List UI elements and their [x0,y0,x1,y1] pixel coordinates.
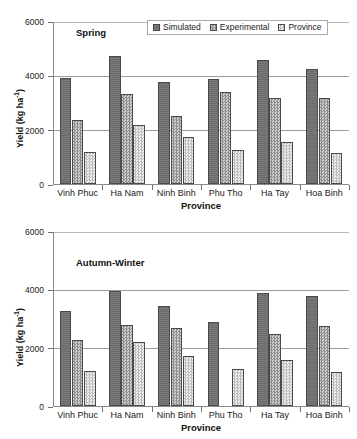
bar-spring-province-ninh-binh [183,137,195,184]
bar-spring-experimental-ha-tay [269,98,281,184]
y-tick-label-2000: 2000 [0,344,44,353]
x-tick-2 [201,185,202,190]
x-axis-label-vinh-phuc: Vinh Phuc [57,188,98,198]
bar-spring-experimental-ha-nam [121,94,133,184]
bar-spring-province-phu-tho [232,150,244,184]
x-tick-2 [201,407,202,412]
bar-autumn-province-ha-tay [281,360,293,406]
x-axis-label-phu-tho: Phu Tho [209,410,243,420]
bar-autumn-province-hoa-binh [331,372,343,406]
bar-spring-experimental-vinh-phuc [72,120,84,184]
legend-label-province: Province [288,23,321,32]
bar-spring-province-hoa-binh [331,153,343,184]
panel-caption-autumn-winter: Autumn-Winter [76,257,145,268]
bar-spring-simulated-ha-nam [109,56,121,184]
legend-entry-province: Province [278,23,321,32]
legend-swatch-experimental-icon [210,24,217,31]
bar-autumn-province-ha-nam [133,342,145,406]
y-tick-label-4000: 4000 [0,286,44,295]
bar-autumn-simulated-ha-nam [109,291,121,406]
x-axis-label-phu-tho: Phu Tho [209,188,243,198]
y-tick-label-0: 0 [0,181,44,190]
y-tick-label-4000: 4000 [0,72,44,81]
bar-autumn-province-vinh-phuc [84,371,96,406]
bar-spring-simulated-phu-tho [208,79,220,184]
x-axis-title-autumn: Province [53,422,349,433]
y-tick-label-2000: 2000 [0,126,44,135]
bar-autumn-simulated-vinh-phuc [60,311,72,406]
legend-entry-simulated: Simulated [153,23,201,32]
bar-autumn-experimental-ha-nam [121,325,133,406]
bar-spring-simulated-vinh-phuc [60,78,72,184]
x-tick-0 [102,407,103,412]
gridline-4000 [54,76,349,77]
legend-label-experimental: Experimental [220,23,270,32]
bar-spring-province-ha-tay [281,142,293,184]
y-axis-title-autumn: Yield (kg ha-1) [13,308,25,367]
figure-root: Yield (kg ha-1) 0200040006000 Spring Sim… [0,0,357,439]
bar-spring-experimental-phu-tho [220,92,232,184]
bar-autumn-experimental-ninh-binh [171,328,183,406]
bar-autumn-experimental-hoa-binh [319,326,331,407]
gridline-6000 [54,232,349,233]
x-tick-1 [152,407,153,412]
x-axis-label-ninh-binh: Ninh Binh [157,410,196,420]
y-axis-title-closeparen: ) [15,89,25,92]
panel-caption-spring: Spring [76,27,106,38]
y-axis-title-closeparen: ) [15,308,25,311]
x-tick-4 [300,185,301,190]
legend-label-simulated: Simulated [163,23,201,32]
legend: SimulatedExperimentalProvince [147,20,328,35]
legend-swatch-province-icon [278,24,285,31]
x-tick-5 [349,407,350,412]
bar-autumn-province-ninh-binh [183,356,195,406]
x-tick-5 [349,185,350,190]
bar-spring-province-vinh-phuc [84,152,96,184]
bar-autumn-province-phu-tho [232,369,244,406]
y-axis-title-superscript: -1 [13,311,20,317]
y-tick-label-0: 0 [0,403,44,412]
bar-autumn-experimental-ha-tay [269,334,281,406]
gridline-4000 [54,290,349,291]
plot-area-spring [53,22,349,185]
bar-spring-simulated-ninh-binh [158,82,170,184]
gridline-2000 [54,130,349,131]
bar-spring-simulated-hoa-binh [306,69,318,184]
bar-autumn-simulated-ha-tay [257,293,269,406]
y-tick-label-6000: 6000 [0,18,44,27]
bar-spring-province-ha-nam [133,125,145,184]
y-tick-label-6000: 6000 [0,228,44,237]
x-axis-label-ha-tay: Ha Tay [261,188,289,198]
x-axis-title-spring: Province [53,200,349,211]
x-axis-label-vinh-phuc: Vinh Phuc [57,410,98,420]
x-axis-label-ha-tay: Ha Tay [261,410,289,420]
x-tick-3 [250,185,251,190]
bar-autumn-simulated-hoa-binh [306,296,318,406]
y-axis-title-text: Yield (kg ha [15,98,25,148]
bar-autumn-simulated-ninh-binh [158,306,170,406]
x-axis-label-ha-nam: Ha Nam [110,188,143,198]
panel-autumn-winter: Yield (kg ha-1) 0200040006000 Autumn-Win… [0,215,357,439]
y-axis-title-superscript: -1 [13,92,20,98]
legend-entry-experimental: Experimental [210,23,270,32]
x-tick-4 [300,407,301,412]
bar-spring-experimental-ninh-binh [171,116,183,184]
gridline-2000 [54,348,349,349]
y-axis-title-text: Yield (kg ha [15,317,25,367]
bar-spring-experimental-hoa-binh [319,98,331,184]
bar-spring-simulated-ha-tay [257,60,269,184]
x-axis-label-ha-nam: Ha Nam [110,410,143,420]
bar-autumn-experimental-vinh-phuc [72,340,84,407]
x-tick-1 [152,185,153,190]
y-axis-title-spring: Yield (kg ha-1) [13,89,25,148]
panel-spring: Yield (kg ha-1) 0200040006000 Spring Sim… [0,0,357,215]
x-tick-0 [102,185,103,190]
x-axis-label-hoa-binh: Hoa Binh [306,188,343,198]
x-axis-label-hoa-binh: Hoa Binh [306,410,343,420]
x-axis-label-ninh-binh: Ninh Binh [157,188,196,198]
bar-autumn-simulated-phu-tho [208,322,220,406]
legend-swatch-simulated-icon [153,24,160,31]
x-tick-3 [250,407,251,412]
